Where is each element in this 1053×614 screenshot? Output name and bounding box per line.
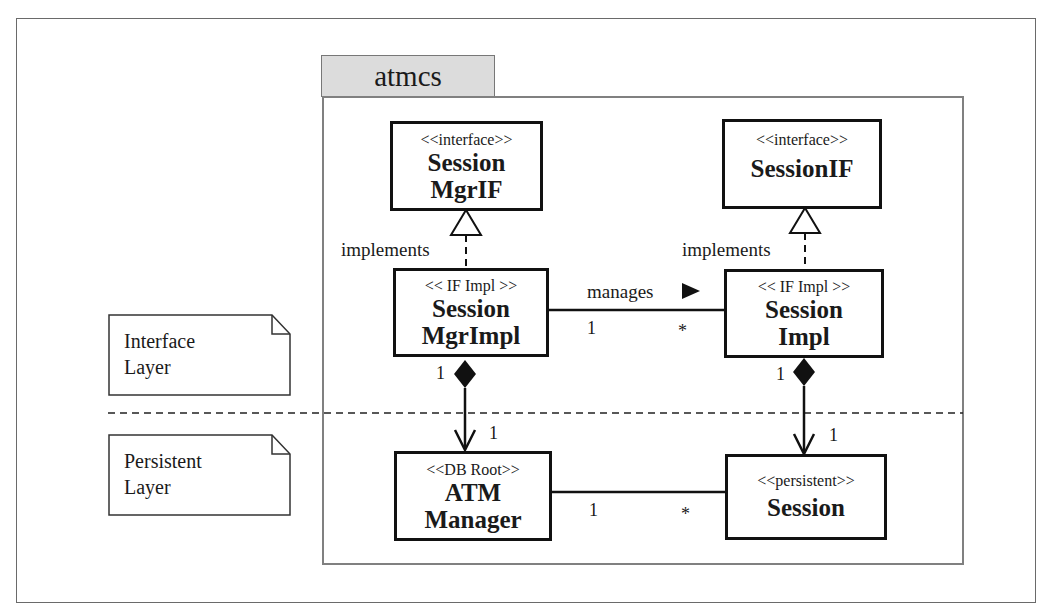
stereotype-label: <<interface>> [420, 130, 512, 149]
class-atm-manager[interactable]: <<DB Root>> ATM Manager [394, 451, 552, 541]
class-name-line: ATM [445, 479, 501, 506]
implements-label-impl: implements [682, 239, 771, 261]
class-name-line: SessionIF [751, 155, 854, 182]
class-session-mgr-impl[interactable]: << IF Impl >> Session MgrImpl [393, 268, 549, 357]
mgr-composition-part-mult: 1 [489, 423, 498, 444]
stereotype-label: <<persistent>> [757, 471, 854, 490]
class-session-impl[interactable]: << IF Impl >> Session Impl [724, 269, 884, 358]
class-name-line: Impl [778, 323, 829, 350]
stereotype-label: << IF Impl >> [758, 277, 851, 296]
manages-mult-from: 1 [587, 318, 596, 339]
atm-session-mult-from: 1 [589, 500, 598, 521]
class-name-line: Session [432, 295, 510, 322]
stereotype-label: << IF Impl >> [425, 276, 518, 295]
mgr-composition-whole-mult: 1 [436, 363, 445, 384]
manages-mult-to: * [678, 321, 687, 342]
stereotype-label: <<interface>> [756, 130, 848, 149]
impl-composition-part-mult: 1 [829, 425, 838, 446]
class-name-line: Session [428, 149, 506, 176]
class-name-line: MgrImpl [422, 322, 521, 349]
manages-label: manages [587, 281, 653, 303]
realization-arrow-icon [790, 208, 820, 233]
class-name-line: Manager [424, 506, 521, 533]
composition-diamond-icon [793, 358, 815, 386]
implements-label-mgr: implements [341, 239, 430, 261]
class-session[interactable]: <<persistent>> Session [725, 454, 887, 540]
class-session-mgr-if[interactable]: <<interface>> Session MgrIF [390, 121, 543, 211]
class-name-line: MgrIF [430, 176, 502, 203]
class-name-line: Session [767, 494, 845, 521]
impl-composition-whole-mult: 1 [776, 364, 785, 385]
class-name-line: Session [765, 296, 843, 323]
composition-diamond-icon [454, 360, 476, 388]
stereotype-label: <<DB Root>> [426, 460, 519, 479]
class-session-if[interactable]: <<interface>> SessionIF [722, 119, 882, 209]
atm-session-mult-to: * [681, 504, 690, 525]
realization-arrow-icon [451, 210, 481, 235]
direction-arrow-icon [682, 283, 700, 299]
